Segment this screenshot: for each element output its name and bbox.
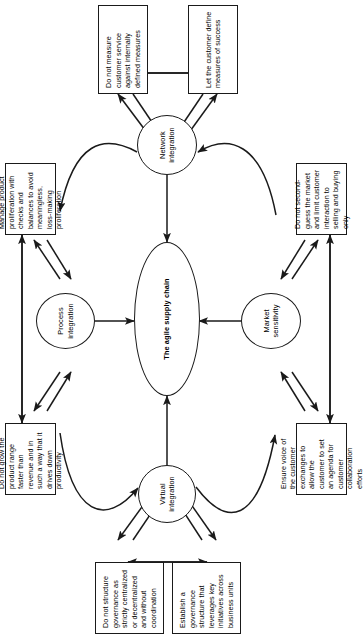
edge-market-to-cust-avoid [292,240,318,279]
box-product-range-avoid[interactable]: Do not grow the product range faster tha… [5,423,56,495]
box-customer-voice-text: Ensure voice of the customer exchanges t… [279,429,364,489]
edge-range-to-process [47,372,71,411]
box-measures-avoid[interactable]: Do not measure customer service against … [98,5,148,94]
edge-market-to-network [198,144,276,215]
box-governance-avoid[interactable]: Do not structure governance as strictly … [95,562,164,634]
edge-process-to-virtual [60,433,138,510]
edge-virtual-to-market [196,435,275,512]
box-customer-second-guess-text: Do not second-guess the market and limit… [293,169,350,229]
node-virtual-integration[interactable]: Virtual integration [138,465,196,523]
box-governance-establish-text: Establish a governance structure that le… [178,568,235,628]
node-process-integration[interactable]: Process integration [36,293,95,349]
box-governance-establish[interactable]: Establish a governance structure that le… [172,562,241,634]
box-customer-second-guess[interactable]: Do not second-guess the market and limit… [296,163,347,235]
node-market-sensitivity[interactable]: Market sensitivity [241,293,301,349]
node-network-integration[interactable]: Network integration [137,115,197,175]
box-product-proliferation[interactable]: Manage product proliferation with checks… [5,163,56,235]
edge-market-to-voice [292,372,318,411]
edge-network-to-process [60,144,137,211]
node-agile-supply-chain[interactable]: The agile supply chain [134,242,200,396]
node-agile-supply-chain-label: The agile supply chain [162,276,171,361]
box-customer-voice[interactable]: Ensure voice of the customer exchanges t… [296,423,347,495]
edge-prolif-to-process [47,240,71,279]
node-network-integration-label: Network integration [158,116,177,174]
box-measures-customer-define-text: Let the customer define measures of succ… [204,11,223,88]
box-measures-customer-define[interactable]: Let the customer define measures of succ… [188,5,238,94]
box-governance-avoid-text: Do not structure governance as strictly … [101,568,158,628]
node-virtual-integration-label: Virtual integration [158,466,177,522]
node-market-sensitivity-label: Market sensitivity [262,294,281,348]
edge-voice-to-market [281,372,305,411]
node-process-integration-label: Process integration [56,294,75,348]
edge-process-to-prolif [34,240,60,279]
box-measures-avoid-text: Do not measure customer service against … [104,11,142,88]
edge-cust-avoid-to-market [281,240,305,279]
edge-process-to-range [34,372,60,411]
box-product-range-avoid-text: Do not grow the product range faster tha… [0,429,64,489]
box-product-proliferation-text: Manage product proliferation with checks… [0,169,64,229]
